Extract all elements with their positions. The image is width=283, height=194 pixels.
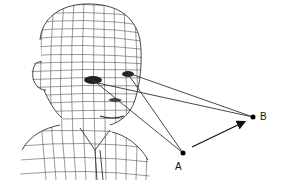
mouth <box>100 116 124 118</box>
point-a-label: A <box>175 162 182 172</box>
diagram-canvas: A B <box>0 0 283 194</box>
point-b-label: B <box>260 112 267 122</box>
sight-line-right-eye-to-B <box>128 73 253 117</box>
sight-lines <box>93 73 253 153</box>
head-outline <box>22 4 148 180</box>
point-b <box>251 115 256 120</box>
sight-line-left-eye-to-A <box>93 80 183 153</box>
point-a <box>181 151 186 156</box>
movement-arrow <box>192 122 244 147</box>
sight-line-right-eye-to-A <box>128 74 183 153</box>
wireframe-head-figure <box>0 0 283 194</box>
